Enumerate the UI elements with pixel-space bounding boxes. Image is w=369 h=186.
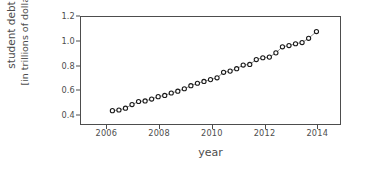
data-point-marker xyxy=(293,42,297,46)
y-axis-title-line-1: student debt xyxy=(5,0,18,105)
data-point-marker xyxy=(150,97,154,101)
y-axis-title-line-2: [in trillions of dollars] xyxy=(18,0,31,105)
data-point-marker xyxy=(202,79,206,83)
x-axis-tick-labels: 20062008201020122014 xyxy=(80,128,341,142)
x-tick-label: 2010 xyxy=(201,128,223,138)
data-point-marker xyxy=(189,84,193,88)
data-point-marker xyxy=(274,51,278,55)
data-point-marker xyxy=(221,70,225,74)
data-point-marker xyxy=(248,62,252,66)
y-tick-label: 0.6 xyxy=(61,85,75,95)
data-point-marker xyxy=(163,93,167,97)
y-axis-title: student debt [in trillions of dollars] xyxy=(5,0,31,105)
data-point-marker xyxy=(208,78,212,82)
data-point-marker xyxy=(280,45,284,49)
x-tick-mark xyxy=(212,125,213,129)
data-point-marker xyxy=(241,63,245,67)
y-tick-mark xyxy=(76,65,80,66)
y-tick-label: 0.8 xyxy=(61,61,75,71)
y-tick-label: 1.0 xyxy=(61,36,75,46)
chart-figure: 0.40.60.81.01.2 20062008201020122014 yea… xyxy=(0,0,369,186)
data-point-marker xyxy=(254,57,258,61)
data-line xyxy=(112,32,316,111)
x-tick-label: 2012 xyxy=(254,128,276,138)
y-tick-label: 1.2 xyxy=(61,11,75,21)
data-point-marker xyxy=(300,40,304,44)
x-tick-label: 2014 xyxy=(306,128,328,138)
data-point-marker xyxy=(143,99,147,103)
y-tick-mark xyxy=(76,90,80,91)
data-point-marker xyxy=(235,67,239,71)
y-tick-label: 0.4 xyxy=(61,110,75,120)
x-tick-mark xyxy=(159,125,160,129)
data-point-marker xyxy=(130,102,134,106)
data-point-marker xyxy=(228,69,232,73)
x-tick-mark xyxy=(265,125,266,129)
data-point-marker xyxy=(261,56,265,60)
data-point-marker xyxy=(195,81,199,85)
data-point-marker xyxy=(136,99,140,103)
y-axis-tick-labels: 0.40.60.81.01.2 xyxy=(55,16,75,125)
x-tick-label: 2006 xyxy=(96,128,118,138)
data-point-marker xyxy=(176,89,180,93)
data-point-marker xyxy=(169,91,173,95)
x-axis-title: year xyxy=(80,146,341,159)
data-point-marker xyxy=(267,55,271,59)
data-point-marker xyxy=(314,30,318,34)
plot-area xyxy=(80,16,341,125)
data-point-marker xyxy=(110,109,114,113)
x-tick-mark xyxy=(317,125,318,129)
data-series-svg xyxy=(81,17,340,124)
data-point-marker xyxy=(215,76,219,80)
x-tick-mark xyxy=(106,125,107,129)
y-tick-mark xyxy=(76,115,80,116)
data-point-marker xyxy=(156,95,160,99)
x-tick-label: 2008 xyxy=(148,128,170,138)
data-point-marker xyxy=(287,44,291,48)
data-point-marker xyxy=(182,87,186,91)
data-point-marker xyxy=(117,108,121,112)
y-tick-mark xyxy=(76,40,80,41)
data-point-marker xyxy=(123,106,127,110)
y-tick-mark xyxy=(76,16,80,17)
data-point-marker xyxy=(307,36,311,40)
